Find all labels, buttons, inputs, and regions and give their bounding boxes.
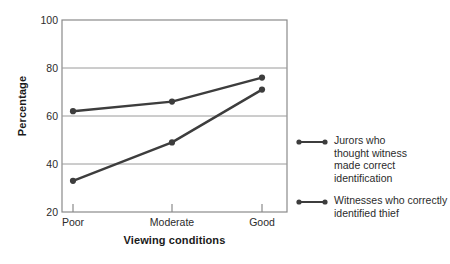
legend-label-jurors-line-4: identification [334,172,407,185]
legend-entry-jurors: Jurors who thought witness made correct … [296,134,446,184]
legend-label-witnesses: Witnesses who correctly identified thief [334,194,447,219]
series-witnesses-polyline [73,90,262,181]
x-axis-title: Viewing conditions [62,234,287,246]
legend-label-witnesses-line-2: identified thief [334,207,447,220]
series-jurors-line [70,75,265,115]
x-tick-label-good: Good [249,216,275,228]
legend-label-jurors-line-1: Jurors who [334,134,407,147]
data-point-witnesses-moderate [169,139,175,145]
legend-line-marker-icon [296,196,328,208]
legend-label-jurors-line-2: thought witness [334,147,407,160]
data-point-witnesses-good [259,87,265,93]
data-point-jurors-good [259,75,265,81]
legend-label-jurors-line-3: made correct [334,159,407,172]
x-tick-label-moderate: Moderate [150,216,194,228]
line-chart-figure: Percentage 20 40 60 80 100 [0,0,450,264]
chart-legend: Jurors who thought witness made correct … [296,134,446,229]
x-tick-label-poor: Poor [62,216,84,228]
legend-line-marker-icon [296,136,328,148]
data-point-jurors-poor [70,108,76,114]
legend-entry-witnesses: Witnesses who correctly identified thief [296,194,446,219]
data-point-witnesses-poor [70,178,76,184]
legend-label-witnesses-line-1: Witnesses who correctly [334,194,447,207]
legend-label-jurors: Jurors who thought witness made correct … [334,134,407,184]
data-point-jurors-moderate [169,99,175,105]
